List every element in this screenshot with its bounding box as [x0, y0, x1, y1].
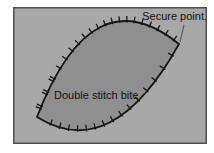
stitch-tick	[119, 16, 120, 23]
secure-point-label: Secure point.	[142, 10, 207, 22]
figure: Secure point. Double stitch bite	[0, 0, 214, 153]
stitch-tick	[86, 125, 87, 132]
wound-closure-diagram	[0, 0, 214, 153]
double-stitch-bite-label: Double stitch bite	[54, 89, 138, 101]
